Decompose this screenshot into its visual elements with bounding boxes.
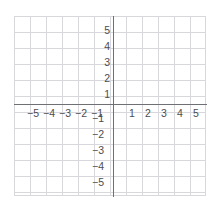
y-tick-label-neg4: −4	[88, 161, 104, 172]
x-tick-label-neg4: −4	[41, 108, 57, 119]
x-tick-label-neg2: −2	[73, 108, 89, 119]
grid-background	[14, 16, 206, 196]
y-tick-label-2: 2	[94, 73, 110, 84]
y-tick-label-4: 4	[94, 41, 110, 52]
x-tick-label-1: 1	[124, 108, 140, 119]
y-tick-label-1: 1	[94, 89, 110, 100]
y-tick-label-5: 5	[94, 25, 110, 36]
y-tick-label-3: 3	[94, 57, 110, 68]
y-tick-label-neg3: −3	[88, 145, 104, 156]
y-tick-label-neg1: −1	[88, 113, 104, 124]
coordinate-plane-figure: −5 −4 −3 −2 −1 1 2 3 4 5 5 4 3 2 1 −1 −2…	[0, 0, 218, 210]
y-axis-line	[113, 16, 114, 197]
x-tick-label-2: 2	[140, 108, 156, 119]
x-tick-label-3: 3	[156, 108, 172, 119]
x-tick-label-neg5: −5	[25, 108, 41, 119]
x-tick-label-4: 4	[172, 108, 188, 119]
y-tick-label-neg2: −2	[88, 129, 104, 140]
y-tick-label-neg5: −5	[88, 177, 104, 188]
x-tick-label-5: 5	[188, 108, 204, 119]
x-axis-line	[14, 104, 207, 105]
x-tick-label-neg3: −3	[57, 108, 73, 119]
